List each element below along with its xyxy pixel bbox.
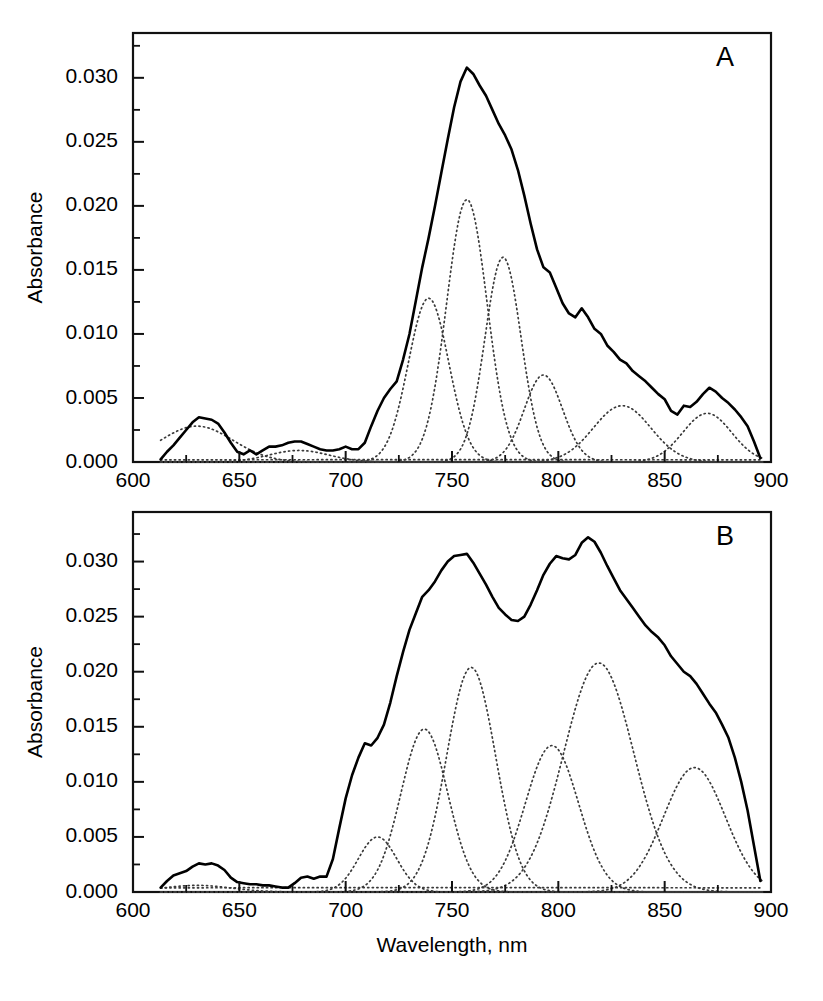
y-tick-label: 0.025 xyxy=(65,603,118,626)
x-tick-label: 800 xyxy=(541,468,576,491)
panel-letter-a: A xyxy=(716,42,734,72)
x-tick-label: 600 xyxy=(115,468,150,491)
y-tick-label: 0.005 xyxy=(65,385,118,408)
component-band-819 xyxy=(161,663,763,892)
x-tick-label: 800 xyxy=(541,898,576,921)
y-tick-label: 0.015 xyxy=(65,256,118,279)
y-axis-title: Absorbance xyxy=(23,191,46,303)
component-band-757 xyxy=(161,199,763,462)
plot-frame xyxy=(133,512,771,892)
y-tick-label: 0.005 xyxy=(65,823,118,846)
y-tick-label: 0.010 xyxy=(65,768,118,791)
y-axis-title: Absorbance xyxy=(23,646,46,758)
component-curves xyxy=(161,199,763,462)
y-tick-label: 0.020 xyxy=(65,192,118,215)
measured-spectrum-curve xyxy=(161,68,761,460)
x-axis-title: Wavelength, nm xyxy=(377,933,528,956)
x-tick-label: 650 xyxy=(222,468,257,491)
component-band-737 xyxy=(161,729,763,892)
y-tick-label: 0.015 xyxy=(65,713,118,736)
y-tick-label: 0.000 xyxy=(65,449,118,472)
x-tick-label: 700 xyxy=(328,898,363,921)
x-tick-label: 900 xyxy=(753,468,788,491)
component-curves xyxy=(161,663,763,892)
panel-a-chart: 0.0000.0050.0100.0150.0200.0250.03060065… xyxy=(0,0,823,500)
x-tick-label: 850 xyxy=(647,468,682,491)
component-band-797 xyxy=(161,746,763,892)
component-band-759 xyxy=(161,667,763,892)
panel-b-chart: 0.0000.0050.0100.0150.0200.0250.03060065… xyxy=(0,500,823,1001)
x-tick-label: 600 xyxy=(115,898,150,921)
component-band-739 xyxy=(161,298,763,462)
plot-frame xyxy=(133,33,771,462)
panel-letter-b: B xyxy=(716,521,734,551)
y-tick-label: 0.010 xyxy=(65,320,118,343)
x-tick-label: 850 xyxy=(647,898,682,921)
y-tick-label: 0.030 xyxy=(65,548,118,571)
component-band-864 xyxy=(161,768,763,892)
x-tick-label: 900 xyxy=(753,898,788,921)
y-tick-label: 0.030 xyxy=(65,64,118,87)
component-band-830 xyxy=(161,406,763,462)
component-band-870 xyxy=(161,413,763,462)
x-tick-label: 750 xyxy=(434,898,469,921)
y-tick-label: 0.020 xyxy=(65,658,118,681)
y-tick-label: 0.000 xyxy=(65,879,118,902)
measured-spectrum-curve xyxy=(161,537,761,887)
y-tick-label: 0.025 xyxy=(65,128,118,151)
x-tick-label: 650 xyxy=(222,898,257,921)
figure-container: 0.0000.0050.0100.0150.0200.0250.03060065… xyxy=(0,0,823,1001)
x-tick-label: 700 xyxy=(328,468,363,491)
x-tick-label: 750 xyxy=(434,468,469,491)
component-band-774 xyxy=(161,257,763,462)
